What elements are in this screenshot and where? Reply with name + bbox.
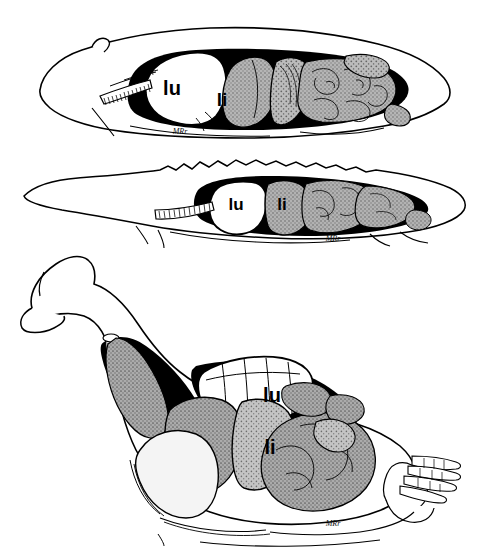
bird-diagram: lu li MRr (0, 250, 478, 547)
comparative-anatomy-figure: lu li MRr (0, 0, 478, 547)
mammal-diagram: lu li MRr (0, 0, 478, 148)
bird-label-li: li (264, 436, 275, 458)
reptile-label-li: li (277, 195, 286, 214)
mammal-artist-signature: MRr (172, 127, 189, 136)
reptile-artist-signature: MRr (325, 234, 342, 243)
bird-foot (384, 456, 461, 522)
panel-mammal: lu li MRr (0, 0, 478, 148)
panel-reptile: lu li MRr (0, 148, 478, 250)
mammal-label-li: li (217, 89, 228, 110)
panel-bird: lu li MRr (0, 250, 478, 547)
mammal-label-lu: lu (163, 77, 181, 99)
bird-label-lu: lu (263, 384, 281, 406)
bird-artist-signature: MRr (325, 519, 342, 528)
reptile-diagram: lu li MRr (0, 148, 478, 250)
reptile-label-lu: lu (228, 195, 243, 214)
